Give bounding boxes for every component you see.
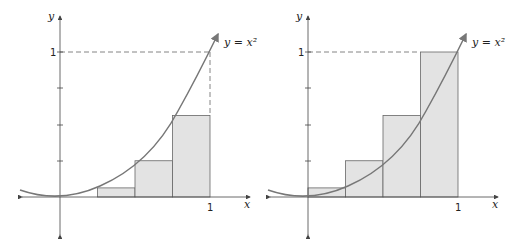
right-tick-x1: 1 [455, 202, 461, 213]
right-curve-label: y = x² [471, 36, 505, 49]
right-rect-4 [421, 52, 459, 197]
right-x-label: x [492, 198, 499, 211]
left-rectangles [98, 115, 211, 197]
right-panel: y x 1 1 y = x² [268, 10, 505, 235]
left-rect-3 [135, 161, 173, 197]
right-tick-y1: 1 [298, 47, 304, 58]
right-y-label: y [295, 10, 303, 23]
left-y-label: y [47, 10, 55, 23]
right-rect-3 [383, 115, 421, 197]
left-rect-2 [98, 188, 136, 197]
left-tick-y1: 1 [50, 47, 56, 58]
riemann-sum-figure: y x 1 1 y = x² y x 1 1 y = x² [0, 0, 512, 251]
left-rect-4 [173, 115, 211, 197]
right-rectangles [308, 52, 458, 197]
left-panel: y x 1 1 y = x² [20, 10, 257, 235]
left-curve-label: y = x² [223, 36, 257, 49]
right-rect-2 [346, 161, 384, 197]
left-x-label: x [244, 198, 251, 211]
left-tick-x1: 1 [207, 202, 213, 213]
